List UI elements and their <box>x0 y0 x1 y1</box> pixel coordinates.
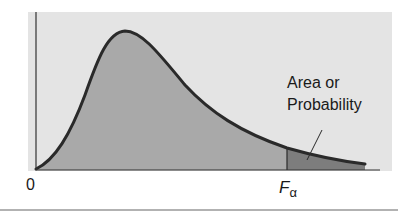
annotation-line2: Probability <box>287 96 362 113</box>
f-distribution-chart: Area or Probability 0 Fα <box>0 0 418 215</box>
f-alpha-label: Fα <box>279 178 297 200</box>
annotation-line1: Area or <box>287 74 340 91</box>
origin-label: 0 <box>26 176 35 193</box>
f-alpha-sub: α <box>289 185 297 200</box>
